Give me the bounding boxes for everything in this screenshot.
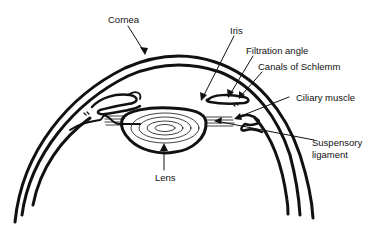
- label-lens: Lens: [155, 172, 176, 183]
- label-suspensory-ligament-line1: Suspensory: [312, 137, 362, 148]
- label-iris: Iris: [230, 25, 243, 36]
- sclera-inner-line: [33, 118, 288, 214]
- label-filtration-angle: Filtration angle: [246, 45, 308, 56]
- lens-rings: [131, 113, 199, 143]
- schlemm-canal-left: [84, 112, 89, 115]
- label-cornea: Cornea: [108, 14, 139, 25]
- eye-anatomy-diagram: [0, 0, 373, 232]
- label-suspensory-ligament-line2: ligament: [312, 149, 348, 160]
- label-ciliary-muscle: Ciliary muscle: [296, 92, 355, 103]
- arrowheads: [140, 47, 245, 151]
- label-canals-of-schlemm: Canals of Schlemm: [258, 61, 340, 72]
- ciliary-left: [70, 115, 140, 130]
